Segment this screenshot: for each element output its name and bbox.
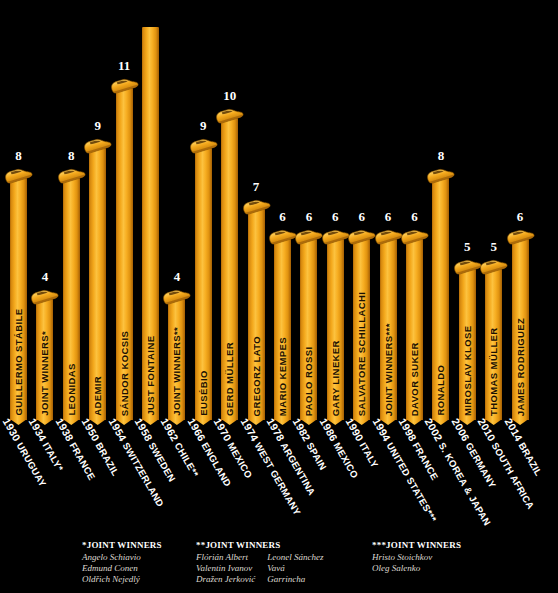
bar[interactable]: MARIO KEMPES	[274, 239, 291, 420]
bar[interactable]: THOMAS MÜLLER	[485, 269, 502, 420]
bar[interactable]: GERD MÜLLER	[221, 118, 238, 420]
bar[interactable]: SALVATORE SCHILLACHI	[353, 239, 370, 420]
axis-tick-country: MEXICO	[331, 441, 360, 481]
footnote-name: Vavá	[267, 563, 323, 574]
bar-group[interactable]: MARIO KEMPES 6	[274, 7, 291, 420]
golden-boot-icon	[212, 102, 246, 127]
bar-group[interactable]: JOINT WINNERS** 4	[168, 7, 185, 420]
footnote-name: Oleg Salenko	[372, 563, 432, 574]
footnote-name-columns: Angelo SchiavioEdmund ConenOldřich Nejed…	[82, 552, 162, 585]
bars-layer: GUILLERMO STÁBILE 8JOINT WINNERS* 4LEONI…	[0, 0, 558, 420]
bar-group[interactable]: EUSÉBIO 9	[195, 7, 212, 420]
bar[interactable]: PAOLO ROSSI	[300, 239, 317, 420]
bar-player-label: GARY LINEKER	[327, 249, 344, 416]
bar-value-label: 6	[358, 210, 365, 223]
bar-player-label: JOINT WINNERS*	[36, 309, 53, 416]
bar-player-label: JOINT WINNERS**	[168, 309, 185, 416]
footnote-name: Leonel Sánchez	[267, 552, 323, 563]
bar-group[interactable]: LEONIDAS 8	[63, 7, 80, 420]
footnote-name-list: Leonel SánchezVaváGarrincha	[267, 552, 323, 585]
bar-value-label: 6	[517, 210, 524, 223]
axis-tick-country: CHILE**	[173, 441, 202, 479]
bar-group[interactable]: SÁNDOR KOCSIS 11	[116, 7, 133, 420]
bar-value-label: 11	[118, 59, 130, 72]
bar[interactable]: MIROSLAV KLOSE	[459, 269, 476, 420]
footnote-heading: **JOINT WINNERS	[196, 540, 323, 550]
bar[interactable]: EUSÉBIO	[195, 148, 212, 420]
footnote-name: Flórián Albert	[196, 552, 255, 563]
bar-value-label: 4	[174, 270, 181, 283]
bar-player-label: ADEMIR	[89, 158, 106, 416]
bar[interactable]: SÁNDOR KOCSIS	[116, 88, 133, 420]
bar-group[interactable]: RONALDO 8	[432, 7, 449, 420]
bar-group[interactable]: JOINT WINNERS*** 6	[380, 7, 397, 420]
x-axis-labels: 1930 URUGUAY1934 ITALY*1938 FRANCE1950 B…	[0, 416, 558, 531]
bar-player-label: GREGORZ LATO	[248, 219, 265, 416]
bar[interactable]: JOINT WINNERS**	[168, 299, 185, 420]
axis-tick-country: ITALY	[358, 441, 381, 470]
golden-boot-icon	[476, 253, 510, 278]
bar-player-label: MARIO KEMPES	[274, 249, 291, 416]
bar[interactable]: JUST FONTAINE	[142, 27, 159, 420]
bar-value-label: 6	[306, 210, 313, 223]
golden-boot-chart: GUILLERMO STÁBILE 8JOINT WINNERS* 4LEONI…	[0, 0, 558, 593]
bar-value-label: 10	[223, 89, 236, 102]
bar[interactable]: RONALDO	[432, 178, 449, 420]
footnote-name: Valentin Ivanov	[196, 563, 255, 574]
bar-player-label: JUST FONTAINE	[142, 37, 159, 416]
bar-group[interactable]: MIROSLAV KLOSE 5	[459, 7, 476, 420]
footnote-name: Edmund Conen	[82, 563, 141, 574]
axis-tick-country: BRAZIL	[94, 441, 122, 478]
bar-group[interactable]: JAMES RODRIGUEZ 6	[512, 7, 529, 420]
bar-player-label: GUILLERMO STÁBILE	[10, 188, 27, 416]
footnote-block: **JOINT WINNERSFlórián AlbertValentin Iv…	[196, 540, 323, 585]
footnote-name: Angelo Schiavio	[82, 552, 141, 563]
bar-value-label: 9	[200, 119, 207, 132]
bar-player-label: JOINT WINNERS***	[380, 249, 397, 416]
bar-group[interactable]: GUILLERMO STÁBILE 8	[10, 7, 27, 420]
bar-value-label: 5	[490, 240, 497, 253]
bar[interactable]: GREGORZ LATO	[248, 209, 265, 420]
footnote-heading: ***JOINT WINNERS	[372, 540, 461, 550]
bar[interactable]: JOINT WINNERS***	[380, 239, 397, 420]
bar-group[interactable]: GERD MÜLLER 10	[221, 7, 238, 420]
bar[interactable]: DAVOR SUKER	[406, 239, 423, 420]
bar-value-label: 4	[42, 270, 49, 283]
bar[interactable]: JOINT WINNERS*	[36, 299, 53, 420]
bar[interactable]: JAMES RODRIGUEZ	[512, 239, 529, 420]
bar-value-label: 8	[68, 149, 75, 162]
footnote-name: Hristo Stoichkov	[372, 552, 432, 563]
footnote-name: Garrincha	[267, 574, 323, 585]
bar-group[interactable]: DAVOR SUKER 6	[406, 7, 423, 420]
footnote-block: ***JOINT WINNERSHristo StoichkovOleg Sal…	[372, 540, 461, 574]
footnote-name-columns: Flórián AlbertValentin IvanovDražen Jerk…	[196, 552, 323, 585]
bar[interactable]: LEONIDAS	[63, 178, 80, 420]
bar-player-label: RONALDO	[432, 188, 449, 416]
bar-value-label: 9	[94, 119, 101, 132]
bar-group[interactable]: ADEMIR 9	[89, 7, 106, 420]
golden-boot-icon	[503, 223, 537, 248]
footnote-name-list: Angelo SchiavioEdmund ConenOldřich Nejed…	[82, 552, 141, 585]
bar-group[interactable]: JOINT WINNERS* 4	[36, 7, 53, 420]
footnote-name: Dražen Jerković	[196, 574, 255, 585]
axis-tick-country: ITALY*	[41, 441, 66, 474]
bar-value-label: 6	[411, 210, 418, 223]
bar-value-label: 6	[332, 210, 339, 223]
bar-player-label: GERD MÜLLER	[221, 128, 238, 416]
bar-group[interactable]: THOMAS MÜLLER 5	[485, 7, 502, 420]
axis-tick-country: BRAZIL	[516, 441, 544, 478]
golden-boot-icon	[239, 193, 273, 218]
bar-group[interactable]: JUST FONTAINE	[142, 7, 159, 420]
bar[interactable]: GARY LINEKER	[327, 239, 344, 420]
bar-group[interactable]: SALVATORE SCHILLACHI 6	[353, 7, 370, 420]
bar[interactable]: ADEMIR	[89, 148, 106, 420]
bar-player-label: SALVATORE SCHILLACHI	[353, 249, 370, 416]
bar[interactable]: GUILLERMO STÁBILE	[10, 178, 27, 420]
bar-value-label: 7	[253, 180, 260, 193]
bar-group[interactable]: PAOLO ROSSI 6	[300, 7, 317, 420]
footnote-block: *JOINT WINNERSAngelo SchiavioEdmund Cone…	[82, 540, 162, 585]
bar-group[interactable]: GARY LINEKER 6	[327, 7, 344, 420]
axis-tick-country: SPAIN	[305, 441, 329, 472]
bar-group[interactable]: GREGORZ LATO 7	[248, 7, 265, 420]
footnotes: *JOINT WINNERSAngelo SchiavioEdmund Cone…	[0, 540, 558, 593]
